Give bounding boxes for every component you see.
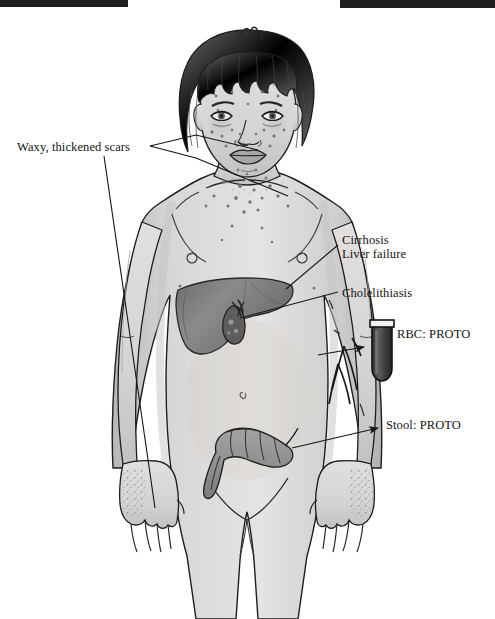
label-stool-proto: Stool: PROTO [386, 418, 461, 433]
anatomical-figure [0, 0, 495, 619]
head [179, 27, 314, 176]
label-cirrhosis: Cirrhosis [342, 233, 389, 248]
label-waxy-thickened-scars: Waxy, thickened scars [17, 140, 130, 155]
scar-texture-hand-right [348, 468, 373, 518]
ear-left [194, 104, 203, 131]
gallstone [227, 331, 231, 335]
hand-left [120, 461, 184, 552]
gallstone [228, 319, 233, 324]
label-liver-failure: Liver failure [342, 247, 406, 262]
scar-texture-hand-left [121, 468, 146, 518]
test-tube [370, 320, 394, 381]
test-tube-rim [370, 320, 394, 327]
illustration-page: Waxy, thickened scars Cirrhosis Liver fa… [0, 0, 495, 619]
body-group [112, 27, 394, 619]
hand-right [310, 461, 374, 552]
eye-right [262, 112, 283, 121]
tube-highlight [375, 330, 378, 374]
label-rbc-proto: RBC: PROTO [397, 327, 470, 342]
label-cholelithiasis: Cholelithiasis [342, 286, 412, 301]
eye-left [211, 112, 232, 121]
gallstone [234, 329, 238, 333]
